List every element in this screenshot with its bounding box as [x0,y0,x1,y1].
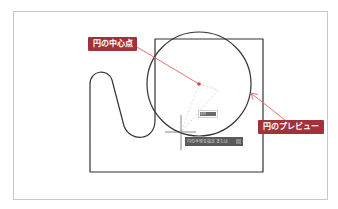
center-leader-line [137,47,199,84]
radius-rubberband-line-3 [181,84,199,132]
drawing-canvas [0,0,338,209]
polyline-outline [90,39,263,172]
callout-circle-preview: 円のプレビュー [258,120,324,134]
preview-leader-line [252,94,285,120]
dynamic-input-radius[interactable]: 半径 [198,110,218,118]
callout-circle-center: 円の中心点 [88,37,137,51]
command-tooltip-text: 円の半径を指定 または [187,139,228,144]
center-point-marker [197,82,201,86]
dynamic-input-value: 半径 [200,112,216,116]
radius-rubberband-line [199,84,218,90]
tooltip-option-icon[interactable] [236,139,241,144]
command-tooltip: 円の半径を指定 または [185,137,243,146]
